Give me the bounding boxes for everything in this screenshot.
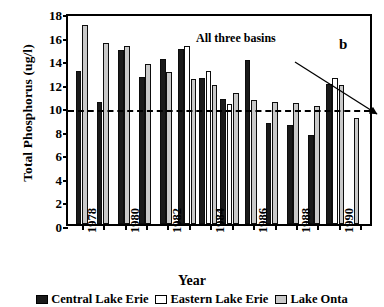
bar-lake-ontario-1986 xyxy=(251,100,257,224)
bar-group-1983 xyxy=(177,16,198,224)
bar-group-1979 xyxy=(92,16,113,224)
legend-item-lake-ontario: Lake Onta xyxy=(275,292,347,307)
bar-central-lake-erie-1984 xyxy=(199,78,205,224)
x-tick-label-1986: 1986 xyxy=(256,208,271,233)
x-tick-mark xyxy=(360,224,362,230)
bar-central-lake-erie-1982 xyxy=(160,59,166,224)
x-tick-mark xyxy=(296,224,298,230)
legend-label-eastern-lake-erie: Eastern Lake Erie xyxy=(170,292,268,307)
bar-group-1978 xyxy=(71,16,92,224)
bar-lake-ontario-1990 xyxy=(339,85,345,224)
bar-group-1981 xyxy=(134,16,155,224)
x-tick-label-1980: 1980 xyxy=(128,208,143,233)
bar-eastern-lake-erie-1984 xyxy=(206,71,212,224)
bar-group-1984 xyxy=(198,16,219,224)
x-tick-mark xyxy=(125,224,127,230)
black-square-swatch xyxy=(36,295,48,304)
bar-central-lake-erie-1983 xyxy=(178,49,184,224)
bar-central-lake-erie-1978 xyxy=(76,71,82,224)
bar-lake-ontario-1980 xyxy=(124,46,130,224)
x-tick-label-1978: 1978 xyxy=(85,208,100,233)
x-tick-mark xyxy=(339,224,341,230)
reference-line-all-three-basins xyxy=(68,110,370,112)
x-tick-label-1984: 1984 xyxy=(213,208,228,233)
x-tick-mark xyxy=(189,224,191,230)
bar-group-1986 xyxy=(240,16,261,224)
white-square-swatch xyxy=(155,295,167,304)
y-tick-mark xyxy=(63,227,68,229)
x-tick-mark xyxy=(103,224,105,230)
bar-eastern-lake-erie-1985 xyxy=(227,104,233,224)
x-tick-mark xyxy=(275,224,277,230)
bar-group-1985 xyxy=(219,16,240,224)
bar-group-1988 xyxy=(282,16,303,224)
bar-central-lake-erie-1986 xyxy=(245,60,251,224)
legend-label-central-lake-erie: Central Lake Erie xyxy=(51,292,148,307)
legend-label-lake-ontario: Lake Onta xyxy=(290,292,347,307)
bar-lake-ontario-1984 xyxy=(212,85,218,224)
legend-item-eastern-lake-erie: Eastern Lake Erie xyxy=(155,292,268,307)
gray-square-swatch xyxy=(275,295,287,304)
bar-lake-ontario-1985 xyxy=(233,93,239,224)
bar-groups xyxy=(68,16,370,224)
x-tick-label-1988: 1988 xyxy=(299,208,314,233)
bar-lake-ontario-1979 xyxy=(103,43,109,224)
bar-lake-ontario-1989 xyxy=(314,106,320,224)
panel-label: b xyxy=(339,36,347,53)
y-axis-title: Total Phosphorus (ug/l) xyxy=(20,28,36,198)
bar-central-lake-erie-1980 xyxy=(118,50,124,224)
bar-group-1987 xyxy=(261,16,282,224)
bar-group-1991 xyxy=(346,16,367,224)
x-tick-mark xyxy=(253,224,255,230)
bar-eastern-lake-erie-1983 xyxy=(184,46,190,224)
bar-eastern-lake-erie-1990 xyxy=(332,78,338,224)
bar-group-1982 xyxy=(156,16,177,224)
x-tick-mark xyxy=(82,224,84,230)
bar-central-lake-erie-1985 xyxy=(220,99,226,224)
x-tick-mark xyxy=(146,224,148,230)
x-tick-mark xyxy=(232,224,234,230)
bar-central-lake-erie-1979 xyxy=(97,102,103,224)
bar-lake-ontario-1982 xyxy=(166,72,172,224)
figure: Total Phosphorus (ug/l) 024681012141618 … xyxy=(0,0,384,307)
x-tick-mark xyxy=(210,224,212,230)
x-tick-mark xyxy=(317,224,319,230)
bar-lake-ontario-1981 xyxy=(145,64,151,224)
bar-lake-ontario-1987 xyxy=(272,102,278,224)
x-tick-label-1982: 1982 xyxy=(170,208,185,233)
annotation-label: All three basins xyxy=(196,31,276,46)
x-axis-title: Year xyxy=(0,273,384,289)
x-tick-label-1990: 1990 xyxy=(342,208,357,233)
bar-lake-ontario-1978 xyxy=(82,25,88,224)
chart-legend: Central Lake Erie Eastern Lake Erie Lake… xyxy=(0,292,384,307)
bar-lake-ontario-1983 xyxy=(191,79,197,224)
bar-group-1989 xyxy=(304,16,325,224)
bar-central-lake-erie-1981 xyxy=(139,77,145,224)
bar-central-lake-erie-1990 xyxy=(326,84,332,224)
bar-lake-ontario-1988 xyxy=(293,103,299,224)
bar-group-1980 xyxy=(113,16,134,224)
bar-central-lake-erie-1988 xyxy=(287,125,293,224)
legend-item-central-lake-erie: Central Lake Erie xyxy=(36,292,148,307)
